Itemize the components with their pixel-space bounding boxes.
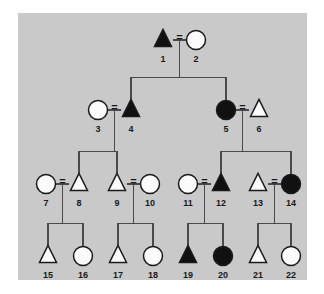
individual-label-3: 3 <box>95 124 100 134</box>
individual-4-triangle-filled <box>123 99 140 116</box>
individual-label-5: 5 <box>223 124 228 134</box>
individual-15-triangle-open <box>40 245 57 262</box>
connector-layer <box>48 40 291 247</box>
individual-1-triangle-filled <box>155 29 172 46</box>
individual-13-triangle-open <box>250 173 267 190</box>
individual-9-triangle-open <box>109 173 126 190</box>
individual-label-7: 7 <box>43 198 48 208</box>
individual-20-circle-filled <box>214 247 233 266</box>
individual-label-9: 9 <box>114 198 119 208</box>
individual-10-circle-open <box>141 175 160 194</box>
individual-label-16: 16 <box>78 270 88 280</box>
individual-16-circle-open <box>74 247 93 266</box>
individual-2-circle-open <box>187 31 206 50</box>
pedigree-diagram: 12345678910111213141516171819202122 ====… <box>0 0 324 294</box>
individual-11-circle-open <box>179 175 198 194</box>
individual-14-circle-filled <box>282 175 301 194</box>
individual-label-11: 11 <box>183 198 193 208</box>
individual-label-12: 12 <box>216 198 226 208</box>
individual-5-circle-filled <box>217 101 236 120</box>
individual-7-circle-open <box>37 175 56 194</box>
individual-8-triangle-open <box>71 173 88 190</box>
individual-label-20: 20 <box>218 270 228 280</box>
individual-label-18: 18 <box>148 270 158 280</box>
individual-label-22: 22 <box>286 270 296 280</box>
individual-18-circle-open <box>144 247 163 266</box>
individual-label-4: 4 <box>128 124 133 134</box>
mating-equals-m7: = <box>271 175 277 187</box>
individual-label-15: 15 <box>43 270 53 280</box>
individual-3-circle-open <box>89 101 108 120</box>
individual-label-8: 8 <box>76 198 81 208</box>
individual-19-triangle-filled <box>180 245 197 262</box>
mating-equals-m3: = <box>239 101 245 113</box>
individual-12-triangle-filled <box>213 173 230 190</box>
individual-label-6: 6 <box>256 124 261 134</box>
individual-label-1: 1 <box>160 54 165 64</box>
mating-equals-m4: = <box>59 175 65 187</box>
individual-label-10: 10 <box>145 198 155 208</box>
mating-equals-m6: = <box>201 175 207 187</box>
individual-label-21: 21 <box>253 270 263 280</box>
individual-label-17: 17 <box>113 270 123 280</box>
individual-17-triangle-open <box>110 245 127 262</box>
individual-22-circle-open <box>282 247 301 266</box>
individual-6-triangle-open <box>251 99 268 116</box>
mating-equals-m1: = <box>176 31 182 43</box>
individual-label-14: 14 <box>286 198 296 208</box>
individual-label-2: 2 <box>193 54 198 64</box>
mating-equals-m5: = <box>130 175 136 187</box>
individual-21-triangle-open <box>250 245 267 262</box>
symbol-layer <box>37 29 301 265</box>
mating-equals-m2: = <box>111 101 117 113</box>
individual-label-19: 19 <box>183 270 193 280</box>
individual-label-13: 13 <box>253 198 263 208</box>
pedigree-figure: 12345678910111213141516171819202122 ====… <box>0 0 324 294</box>
